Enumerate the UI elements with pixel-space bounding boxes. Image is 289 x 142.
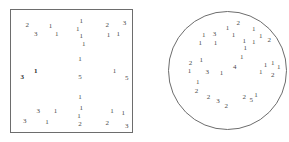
- point-label: 3: [216, 98, 220, 105]
- point-label: 3: [206, 68, 210, 75]
- point-label: 2: [25, 22, 29, 29]
- point-label: 5: [78, 74, 82, 81]
- point-label: 1: [196, 79, 200, 86]
- point-label: 1: [110, 107, 114, 114]
- point-label: 1: [277, 63, 281, 70]
- point-label: 2: [267, 36, 271, 43]
- point-label: 2: [105, 120, 109, 127]
- point-label: 1: [252, 25, 256, 32]
- point-label: 1: [259, 68, 263, 75]
- point-label: 2: [242, 93, 246, 100]
- point-label: 4: [233, 63, 237, 70]
- point-label: 3: [34, 30, 38, 37]
- point-label: 1: [78, 55, 82, 62]
- point-label: 1: [244, 44, 248, 51]
- spatial-point-pattern-figure: 213111111231131515131311121123 121131111…: [0, 0, 289, 142]
- point-label: 3: [21, 74, 25, 81]
- point-label: 1: [232, 31, 236, 38]
- point-label: 1: [226, 24, 230, 31]
- panel-circle-region: 121131111112112113411111212232251: [145, 0, 289, 142]
- point-label: 1: [121, 110, 125, 117]
- point-label: 5: [250, 97, 254, 104]
- point-label: 2: [236, 19, 240, 26]
- point-label: 1: [254, 92, 258, 99]
- point-label: 3: [125, 122, 129, 129]
- point-label: 1: [77, 112, 81, 119]
- point-label: 2: [207, 93, 211, 100]
- point-label: 2: [225, 103, 229, 110]
- point-label: 2: [195, 87, 199, 94]
- point-label: 1: [264, 61, 268, 68]
- point-label: 1: [271, 60, 275, 67]
- point-label: 5: [125, 75, 129, 82]
- point-label: 1: [116, 30, 120, 37]
- panel-square-region: 213111111231131515131311121123: [0, 0, 145, 142]
- point-label: 1: [34, 68, 38, 75]
- point-label: 1: [78, 94, 82, 101]
- point-label: 1: [82, 40, 86, 47]
- point-label: 1: [45, 118, 49, 125]
- point-label: 1: [202, 31, 206, 38]
- point-label: 1: [54, 107, 58, 114]
- point-label: 1: [49, 23, 53, 30]
- point-label: 2: [105, 22, 109, 29]
- point-label: 3: [23, 117, 27, 124]
- point-label: 1: [188, 67, 192, 74]
- point-label: 1: [80, 18, 84, 25]
- point-label: 1: [259, 32, 263, 39]
- point-label: 1: [240, 54, 244, 61]
- point-label: 3: [213, 30, 217, 37]
- point-label: 1: [107, 32, 111, 39]
- point-label: 1: [198, 40, 202, 47]
- point-label: 1: [55, 30, 59, 37]
- point-label: 1: [220, 69, 224, 76]
- point-label: 1: [200, 56, 204, 63]
- point-label: 3: [37, 107, 41, 114]
- point-label: 2: [78, 121, 82, 128]
- point-label: 1: [252, 38, 256, 45]
- point-label: 2: [271, 72, 275, 79]
- point-label: 3: [123, 19, 127, 26]
- point-label: 1: [214, 40, 218, 47]
- point-label: 1: [113, 68, 117, 75]
